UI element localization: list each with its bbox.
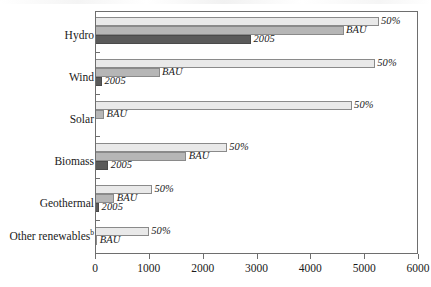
bar-label-other-renewables-bau: BAU (100, 235, 121, 244)
bar-label-solar-bau: BAU (107, 109, 128, 118)
y-axis-label-geothermal: Geothermal (40, 197, 94, 209)
y-axis-tick-biomass-geothermal (95, 178, 100, 179)
bar-label-geothermal-50pct: 50% (154, 184, 174, 193)
plot-area: 50% BAU 2005 50% BAU 2005 50% BAU 50% BA… (95, 11, 418, 254)
bar-label-other-renewables-50pct: 50% (151, 226, 171, 235)
y-axis-label-wind: Wind (69, 71, 94, 83)
bar-hydro-2005 (96, 35, 251, 44)
bar-hydro-50pct (96, 17, 379, 26)
bar-label-hydro-50pct: 50% (381, 16, 401, 25)
y-axis-tick-hydro-wind (95, 52, 100, 53)
y-axis-tick-solar-biomass (95, 136, 100, 137)
x-axis-label-2000: 2000 (191, 262, 214, 275)
bar-solar-bau (96, 110, 104, 119)
y-axis-label-hydro: Hydro (65, 29, 94, 41)
bar-biomass-bau (96, 152, 186, 161)
y-axis-tick-geothermal-other (95, 220, 100, 221)
x-axis-label-3000: 3000 (245, 262, 268, 275)
bar-label-geothermal-2005: 2005 (102, 202, 123, 211)
bar-hydro-bau (96, 26, 344, 35)
x-axis-label-5000: 5000 (353, 262, 376, 275)
y-axis-label-other-renewables-text: Other renewables (9, 230, 90, 242)
bar-label-hydro-bau: BAU (346, 25, 367, 34)
x-axis-label-6000: 6000 (407, 262, 430, 275)
y-axis-label-other-renewables-footnote: b (90, 228, 94, 237)
y-axis-label-other-renewables: Other renewablesb (9, 230, 94, 242)
bar-other-renewables-bau (96, 236, 97, 245)
x-axis-tick-0 (95, 254, 96, 259)
bar-label-hydro-2005: 2005 (254, 34, 275, 43)
y-axis-tick-wind-solar (95, 94, 100, 95)
x-axis-tick-6000 (418, 254, 419, 259)
bar-biomass-2005 (96, 161, 108, 170)
bar-label-solar-50pct: 50% (354, 100, 374, 109)
x-axis-tick-2000 (203, 254, 204, 259)
x-axis-label-1000: 1000 (137, 262, 160, 275)
bar-solar-50pct (96, 101, 352, 110)
bar-wind-50pct (96, 59, 375, 68)
bar-label-biomass-2005: 2005 (111, 160, 132, 169)
x-axis-tick-1000 (149, 254, 150, 259)
x-axis-tick-4000 (310, 254, 311, 259)
y-axis-label-solar: Solar (70, 113, 94, 125)
x-axis-label-4000: 4000 (299, 262, 322, 275)
x-axis-label-0: 0 (92, 262, 98, 275)
horizontal-bar-chart: 50% BAU 2005 50% BAU 2005 50% BAU 50% BA… (0, 0, 431, 287)
bar-geothermal-2005 (96, 203, 99, 212)
bar-label-wind-bau: BAU (162, 67, 183, 76)
bar-label-biomass-50pct: 50% (229, 142, 249, 151)
bar-label-biomass-bau: BAU (189, 151, 210, 160)
y-axis-label-biomass: Biomass (54, 155, 94, 167)
bar-label-wind-50pct: 50% (377, 58, 397, 67)
x-axis-tick-5000 (364, 254, 365, 259)
x-axis-tick-3000 (257, 254, 258, 259)
bar-label-wind-2005: 2005 (104, 76, 125, 85)
bar-wind-2005 (96, 77, 102, 86)
